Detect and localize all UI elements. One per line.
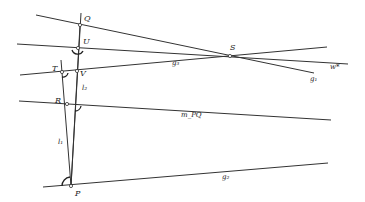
label-v: V	[80, 70, 86, 78]
point-u	[76, 46, 79, 49]
label-l1: l₁	[58, 139, 63, 146]
label-m-pq: m_PQ	[181, 112, 202, 119]
label-q: Q	[84, 15, 91, 23]
label-w-star: w*	[330, 64, 340, 71]
label-l2: l₂	[82, 85, 87, 92]
point-t	[60, 70, 63, 73]
line-g2	[43, 163, 328, 187]
label-t: T	[52, 65, 57, 73]
label-p: P	[75, 190, 80, 198]
point-p	[69, 184, 72, 187]
line-w-star	[17, 44, 348, 64]
angle-arc-u	[72, 50, 83, 54]
label-g2: g₂	[222, 174, 229, 181]
label-s: S	[230, 44, 235, 52]
point-s	[228, 54, 231, 57]
line-l1	[61, 60, 71, 186]
point-r	[65, 102, 68, 105]
label-r: R	[55, 97, 61, 105]
point-q	[78, 23, 81, 26]
label-u: U	[83, 38, 90, 46]
label-g3: g₃	[172, 60, 179, 67]
label-g1: g₁	[310, 76, 317, 83]
point-v	[75, 69, 78, 72]
